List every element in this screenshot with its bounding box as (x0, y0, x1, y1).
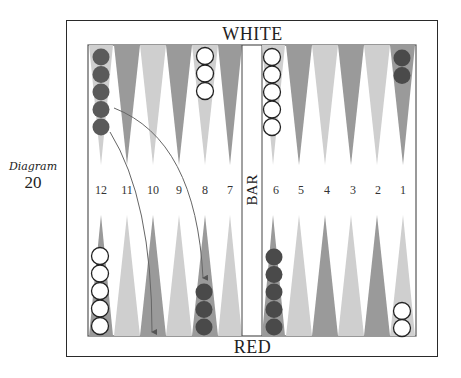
red-checker[interactable] (266, 319, 283, 336)
red-checker[interactable] (266, 301, 283, 318)
red-checkers-top-left (93, 49, 110, 136)
red-checker[interactable] (93, 101, 110, 118)
white-checker[interactable] (92, 283, 109, 300)
point-number-8: 8 (202, 183, 208, 197)
point-number-1: 1 (400, 183, 406, 197)
point-number-11: 11 (121, 183, 133, 197)
point-number-10: 10 (147, 183, 159, 197)
bar-label: BAR (244, 175, 260, 206)
point-number-6: 6 (273, 183, 279, 197)
point-number-5: 5 (298, 183, 304, 197)
white-checker[interactable] (92, 318, 109, 335)
white-checker[interactable] (264, 101, 281, 118)
white-checker[interactable] (197, 65, 214, 82)
white-checker[interactable] (92, 300, 109, 317)
white-checker[interactable] (394, 320, 411, 337)
point-number-7: 7 (227, 183, 233, 197)
point-number-12: 12 (95, 183, 107, 197)
red-checker[interactable] (266, 249, 283, 266)
red-checker[interactable] (394, 67, 411, 84)
white-checker[interactable] (92, 265, 109, 282)
point-number-9: 9 (176, 183, 182, 197)
white-checkers-bottom-12 (92, 248, 109, 335)
red-checker[interactable] (266, 266, 283, 283)
red-checker[interactable] (93, 49, 110, 66)
red-checker[interactable] (394, 50, 411, 67)
red-checker[interactable] (93, 119, 110, 136)
red-checker[interactable] (196, 319, 213, 336)
white-side-label: WHITE (0, 24, 461, 45)
red-checker[interactable] (93, 84, 110, 101)
red-checker[interactable] (266, 284, 283, 301)
white-checker[interactable] (264, 84, 281, 101)
point-number-2: 2 (375, 183, 381, 197)
red-checker[interactable] (196, 284, 213, 301)
backgammon-board: BAR 12 11 10 9 8 7 6 5 4 3 2 1 (0, 0, 461, 378)
red-checkers-bottom-6 (266, 249, 283, 336)
red-side-label: RED (0, 337, 461, 358)
white-checker[interactable] (264, 49, 281, 66)
white-checkers-top-8 (197, 48, 214, 100)
point-number-4: 4 (324, 183, 330, 197)
red-checker[interactable] (196, 301, 213, 318)
white-checker[interactable] (197, 48, 214, 65)
white-checkers-top-6 (264, 49, 281, 136)
point-number-3: 3 (350, 183, 356, 197)
white-checker[interactable] (197, 83, 214, 100)
white-checker[interactable] (92, 248, 109, 265)
white-checker[interactable] (264, 66, 281, 83)
red-checkers-bottom-8 (196, 284, 213, 336)
white-checker[interactable] (264, 119, 281, 136)
white-checker[interactable] (394, 303, 411, 320)
red-checker[interactable] (93, 66, 110, 83)
